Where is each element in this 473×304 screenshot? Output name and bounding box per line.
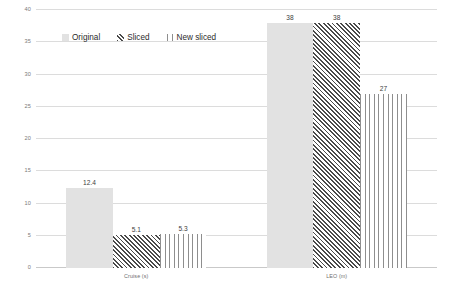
y-axis-tick-label: 10 bbox=[25, 200, 31, 206]
bar-value-label: 5.3 bbox=[178, 225, 187, 232]
x-axis-category-label: Cruise (s) bbox=[36, 269, 237, 283]
bar-slot: 38 bbox=[267, 10, 314, 268]
legend-swatch-icon bbox=[62, 34, 69, 41]
bar-value-label: 38 bbox=[286, 14, 293, 21]
y-axis-tick-label: 30 bbox=[25, 71, 31, 77]
bar-value-label: 5.1 bbox=[132, 226, 141, 233]
bar-slot: 38 bbox=[313, 10, 360, 268]
bar-slot: 5.3 bbox=[160, 10, 207, 268]
bar[interactable]: 5.1 bbox=[113, 235, 160, 268]
bar-value-label: 27 bbox=[380, 85, 387, 92]
legend-item-label: New sliced bbox=[177, 33, 217, 42]
bar-slot: 27 bbox=[360, 10, 407, 268]
bar-group: 383827 bbox=[237, 10, 438, 268]
legend-item-label: Original bbox=[72, 33, 100, 42]
chart-legend: OriginalSlicedNew sliced bbox=[62, 33, 216, 42]
bar[interactable]: 38 bbox=[267, 23, 314, 268]
y-axis-tick-label: 40 bbox=[25, 6, 31, 12]
legend-item-new-sliced[interactable]: New sliced bbox=[167, 33, 217, 42]
y-axis-tick-label: 5 bbox=[28, 232, 31, 238]
bar-group-bars: 12.45.15.3 bbox=[66, 10, 206, 268]
legend-swatch-icon bbox=[167, 34, 174, 41]
bar[interactable]: 12.4 bbox=[66, 188, 113, 268]
plot-area: 0510152025303540 12.45.15.3383827 bbox=[36, 10, 437, 268]
bar-groups: 12.45.15.3383827 bbox=[36, 10, 437, 268]
legend-item-sliced[interactable]: Sliced bbox=[117, 33, 149, 42]
legend-swatch-icon bbox=[117, 34, 124, 41]
bar-chart: 0510152025303540 12.45.15.3383827 Cruise… bbox=[0, 0, 473, 304]
x-axis-category-label: LEO (m) bbox=[237, 269, 438, 283]
bar-slot: 12.4 bbox=[66, 10, 113, 268]
bar-slot: 5.1 bbox=[113, 10, 160, 268]
bar[interactable]: 38 bbox=[313, 23, 360, 268]
x-axis-category-labels: Cruise (s)LEO (m) bbox=[36, 269, 437, 283]
y-axis-tick-label: 35 bbox=[25, 38, 31, 44]
y-axis-tick-label: 15 bbox=[25, 167, 31, 173]
bar[interactable]: 5.3 bbox=[160, 234, 207, 268]
y-axis-tick-label: 20 bbox=[25, 135, 31, 141]
bar-value-label: 12.4 bbox=[83, 179, 96, 186]
bar-group: 12.45.15.3 bbox=[36, 10, 237, 268]
bar-value-label: 38 bbox=[333, 14, 340, 21]
y-axis-tick-label: 0 bbox=[28, 264, 31, 270]
legend-item-original[interactable]: Original bbox=[62, 33, 100, 42]
y-axis-tick-label: 25 bbox=[25, 103, 31, 109]
legend-item-label: Sliced bbox=[127, 33, 149, 42]
bar-group-bars: 383827 bbox=[267, 10, 407, 268]
bar[interactable]: 27 bbox=[360, 94, 407, 268]
